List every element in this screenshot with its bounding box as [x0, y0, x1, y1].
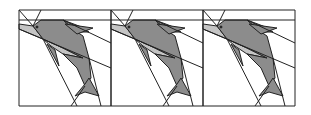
dolphin-panel-1 — [19, 10, 111, 106]
dolphin-panel-3 — [203, 10, 295, 106]
dolphin-drawing — [19, 10, 111, 106]
dolphin-drawing — [111, 10, 203, 106]
dolphin-drawing — [203, 10, 295, 106]
dolphin-panel-2 — [111, 10, 203, 106]
